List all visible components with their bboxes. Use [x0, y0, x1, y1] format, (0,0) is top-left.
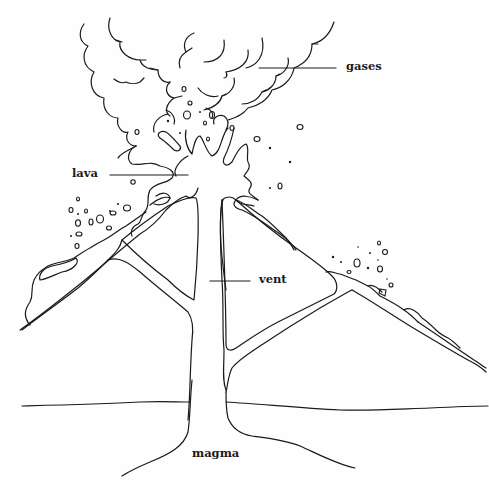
right-ejecta: [332, 241, 393, 296]
ground-line-left: [22, 402, 190, 406]
label-gases: gases: [346, 61, 382, 73]
magma-chamber: [122, 380, 355, 476]
volcano-diagram: [0, 0, 489, 492]
ejecta-particles: [131, 87, 303, 190]
label-vent: vent: [259, 274, 287, 286]
label-lava: lava: [72, 168, 98, 180]
ground-line-right: [226, 402, 488, 410]
volcano-cone: [20, 188, 486, 420]
gas-cloud: [80, 18, 334, 146]
label-magma: magma: [192, 448, 239, 460]
